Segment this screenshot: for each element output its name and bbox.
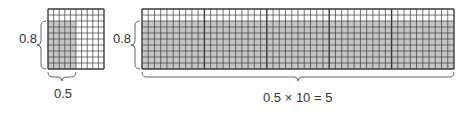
large-grid-width-label: 0.5 × 10 = 5	[263, 90, 332, 105]
large-grid-height-label: 0.8	[113, 31, 131, 46]
small-grid-height-label: 0.8	[19, 31, 37, 46]
area-model-diagram	[0, 0, 471, 122]
small-grid-width-label: 0.5	[54, 86, 72, 101]
large-grid-5-by-0.8	[142, 9, 454, 69]
small-grid-0.5-by-0.8	[48, 9, 104, 69]
